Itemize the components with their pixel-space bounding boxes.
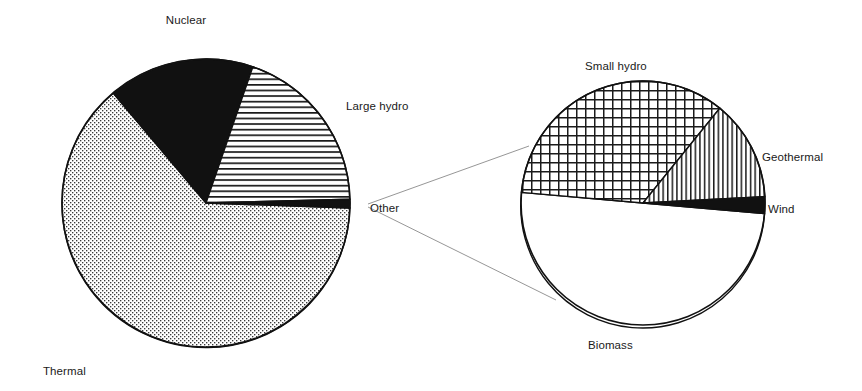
- label-biomass: Biomass: [588, 339, 633, 351]
- label-small-hydro: Small hydro: [585, 60, 647, 72]
- label-other: Other: [370, 202, 399, 214]
- breakdown-pie-chart: Small hydro Geothermal Wind Biomass: [521, 60, 823, 351]
- label-thermal: Thermal: [43, 365, 86, 377]
- label-wind: Wind: [768, 203, 795, 215]
- pie-slice-biomass[interactable]: [521, 192, 765, 328]
- label-geothermal: Geothermal: [762, 151, 823, 163]
- leader-line-upper: [368, 146, 529, 204]
- label-large-hydro: Large hydro: [346, 100, 408, 112]
- label-nuclear: Nuclear: [166, 14, 206, 26]
- main-pie-chart: Nuclear Large hydro Other Thermal: [43, 14, 408, 377]
- two-pie-breakdown-figure: Nuclear Large hydro Other Thermal Small …: [0, 0, 862, 391]
